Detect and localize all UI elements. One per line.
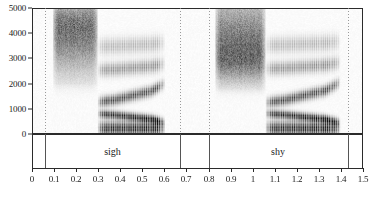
x-tick-mark: [231, 168, 232, 172]
x-tick-label: 0.5: [137, 175, 148, 184]
y-tick-label: 3000: [9, 54, 26, 63]
x-tick-label: 1.5: [358, 175, 369, 184]
x-tick-mark: [341, 168, 342, 172]
x-tick-label: 0.2: [71, 175, 82, 184]
y-axis: 500040003000200010000: [0, 0, 31, 140]
x-axis-line: [32, 168, 363, 169]
x-tick-mark: [142, 168, 143, 172]
x-tick-mark: [54, 168, 55, 172]
segment-boundary-line: [348, 8, 349, 134]
spectrogram-plot: [32, 8, 363, 134]
x-tick-label: 0.9: [226, 175, 237, 184]
x-tick-label: 1.4: [336, 175, 347, 184]
x-tick-mark: [186, 168, 187, 172]
y-tick-label: 5000: [9, 4, 26, 13]
x-tick-mark: [76, 168, 77, 172]
x-tick-mark: [209, 168, 210, 172]
x-tick-label: 0.3: [93, 175, 104, 184]
word-label-band: [32, 134, 363, 168]
y-tick-label: 0: [22, 130, 26, 139]
word-label: shy: [271, 147, 285, 157]
segment-boundary-line: [180, 8, 181, 134]
x-tick-mark: [253, 168, 254, 172]
spectrogram-image: [33, 9, 362, 133]
x-tick-label: 0.7: [181, 175, 192, 184]
word-band-divider: [209, 134, 210, 168]
x-tick-label: 0: [30, 175, 34, 184]
word-band-divider: [348, 134, 349, 168]
x-tick-mark: [120, 168, 121, 172]
x-tick-label: 0.4: [115, 175, 126, 184]
x-tick-mark: [319, 168, 320, 172]
y-tick-label: 4000: [9, 29, 26, 38]
x-tick-mark: [98, 168, 99, 172]
x-tick-label: 0.8: [204, 175, 215, 184]
x-tick-label: 0.1: [49, 175, 60, 184]
y-tick-label: 1000: [9, 104, 26, 113]
x-tick-mark: [164, 168, 165, 172]
x-tick-mark: [363, 168, 364, 172]
x-tick-mark: [275, 168, 276, 172]
segment-boundary-line: [209, 8, 210, 134]
y-tick-label: 2000: [9, 79, 26, 88]
word-label: sigh: [104, 147, 121, 157]
x-tick-label: 1: [251, 175, 255, 184]
segment-boundary-line: [45, 8, 46, 134]
spectrogram-figure: 500040003000200010000 sighshy 00.10.20.3…: [0, 0, 381, 198]
x-tick-mark: [32, 168, 33, 172]
x-tick-mark: [297, 168, 298, 172]
x-tick-label: 0.6: [159, 175, 170, 184]
x-tick-label: 1.1: [270, 175, 281, 184]
word-band-divider: [45, 134, 46, 168]
x-tick-label: 1.2: [292, 175, 303, 184]
x-tick-label: 1.3: [314, 175, 325, 184]
word-band-divider: [180, 134, 181, 168]
